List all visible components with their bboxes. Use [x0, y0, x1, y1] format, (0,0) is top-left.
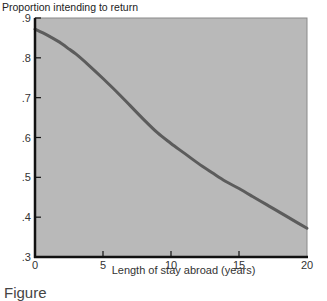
y-axis-label: Proportion intending to return [2, 1, 138, 13]
y-tick-label: .8 [22, 52, 31, 64]
figure-caption: Figure [4, 284, 47, 301]
y-tick-label: .3 [22, 251, 31, 263]
y-tick-label: .4 [22, 211, 31, 223]
y-tick-label: .6 [22, 132, 31, 144]
y-tick-label: .7 [22, 92, 31, 104]
x-axis-label: Length of stay abroad (years) [0, 264, 327, 276]
y-tick-label: .5 [22, 171, 31, 183]
y-tick-label: .9 [22, 12, 31, 24]
